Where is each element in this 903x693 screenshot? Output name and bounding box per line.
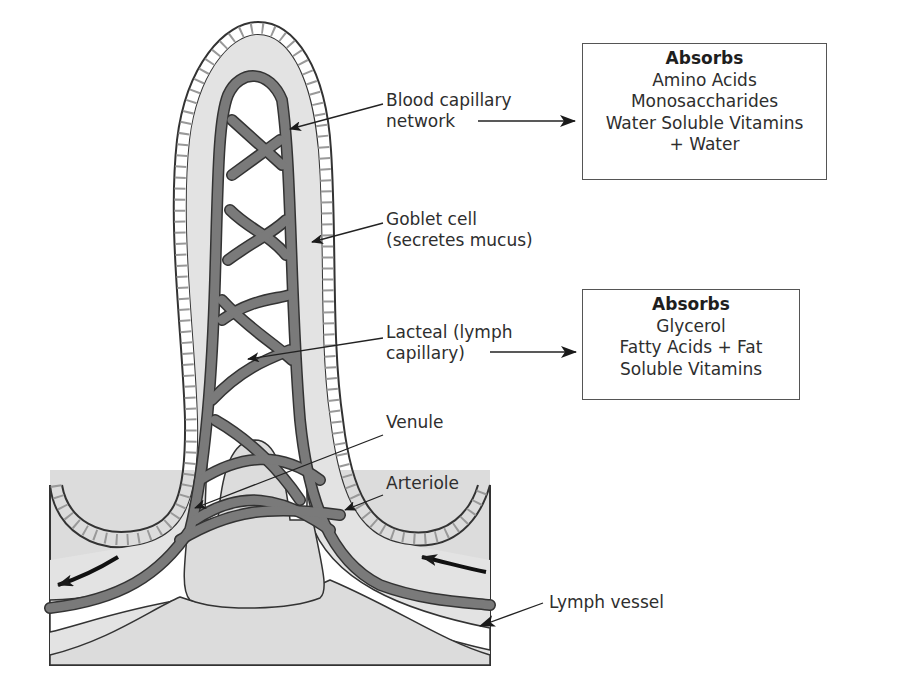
box-title: Absorbs — [583, 48, 826, 70]
goblet-cell-leader — [312, 223, 383, 242]
box-item: Water Soluble Vitamins — [583, 113, 826, 135]
label-goblet-cell: Goblet cell (secretes mucus) — [386, 209, 533, 251]
label-venule: Venule — [386, 412, 444, 433]
box-item: Monosaccharides — [583, 91, 826, 113]
box-item: + Water — [583, 134, 826, 156]
box-item: Amino Acids — [583, 70, 826, 92]
box-item: Glycerol — [583, 316, 799, 338]
blood-absorbs-box: Absorbs Amino Acids Monosaccharides Wate… — [582, 43, 827, 180]
label-lymph-vessel: Lymph vessel — [549, 592, 664, 613]
box-item: Fatty Acids + Fat — [583, 337, 799, 359]
box-title: Absorbs — [583, 294, 799, 316]
box-item: Soluble Vitamins — [583, 359, 799, 381]
label-lacteal: Lacteal (lymph capillary) — [386, 322, 512, 364]
label-arteriole: Arteriole — [386, 473, 459, 494]
lymph-absorbs-box: Absorbs Glycerol Fatty Acids + Fat Solub… — [582, 289, 800, 400]
label-blood-capillary: Blood capillary network — [386, 90, 512, 132]
